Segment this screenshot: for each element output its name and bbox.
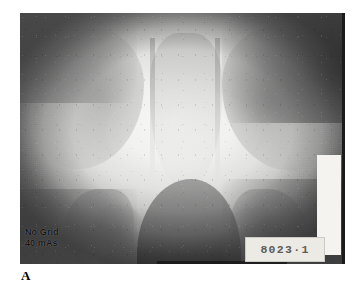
figure-root: No Grid 40 mAs 8023·1 A bbox=[0, 0, 364, 291]
film-grain-texture bbox=[20, 13, 345, 264]
technique-annotation: No Grid 40 mAs bbox=[25, 227, 59, 248]
radiograph-image: No Grid 40 mAs 8023·1 bbox=[20, 13, 345, 264]
film-id-label: 8023·1 bbox=[245, 237, 325, 262]
film-id-text: 8023·1 bbox=[260, 243, 309, 256]
technique-line-mas: 40 mAs bbox=[25, 238, 59, 249]
figure-part-label: A bbox=[21, 268, 30, 284]
technique-line-grid: No Grid bbox=[25, 227, 59, 238]
dark-film-edge bbox=[342, 13, 345, 264]
